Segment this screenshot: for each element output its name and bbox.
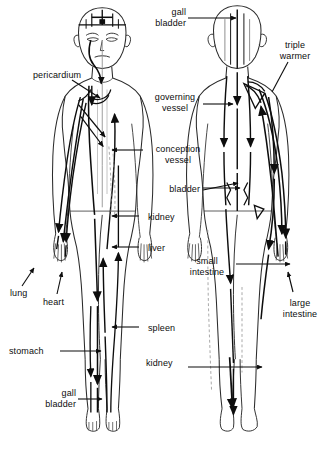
- label-spleen: spleen: [148, 323, 196, 334]
- meridian-chart-page: gall bladder triple warmer pericardium g…: [0, 0, 330, 457]
- label-liver: liver: [148, 243, 188, 254]
- meridian-kidney-leg-back: [230, 357, 233, 408]
- leader-triple-warmer: [272, 62, 288, 92]
- leader-large-intestine: [288, 272, 293, 292]
- label-stomach: stomach: [9, 346, 63, 357]
- label-large-intestine: large intestine: [270, 298, 330, 319]
- label-heart: heart: [43, 297, 83, 308]
- meridian-conception-vessel-front: [98, 42, 108, 207]
- meridian-lung-front: [57, 97, 81, 249]
- label-pericardium: pericardium: [33, 70, 113, 81]
- leader-bladder-b: [203, 183, 238, 190]
- leader-lung: [22, 268, 34, 286]
- label-gall-bladder-head: gall bladder: [126, 7, 186, 28]
- label-small-intestine: small intestine: [176, 256, 238, 277]
- label-kidney-upper: kidney: [148, 212, 196, 223]
- label-triple-warmer: triple warmer: [262, 40, 328, 61]
- leader-heart: [57, 272, 62, 294]
- label-bladder: bladder: [152, 184, 200, 195]
- label-conception-vessel: conception vessel: [146, 144, 210, 165]
- label-kidney-lower: kidney: [146, 358, 194, 369]
- meridian-governing-vessel-back: [225, 10, 250, 211]
- meridian-gall-bladder-front: [90, 306, 91, 412]
- leader-pericardium: [72, 80, 100, 98]
- label-governing-vessel: governing vessel: [146, 92, 204, 113]
- meridian-gluteal-marker-back: [254, 205, 264, 218]
- label-gall-bladder-leg: gall bladder: [26, 388, 76, 409]
- meridian-governing-vessel-front: [79, 10, 127, 29]
